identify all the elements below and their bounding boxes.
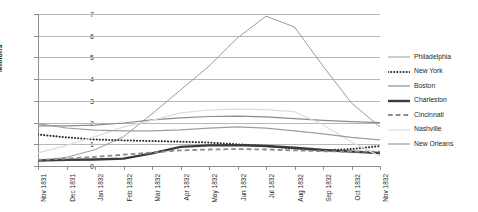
legend-item-new-york[interactable]: New York xyxy=(388,65,476,80)
x-tick-mark xyxy=(238,166,239,170)
x-tick-mark xyxy=(323,166,324,170)
x-tick-mark xyxy=(209,166,210,170)
x-tick-mark xyxy=(181,166,182,170)
legend-item-cincinnati[interactable]: Cincinnati xyxy=(388,108,476,123)
series-lines xyxy=(38,14,380,166)
series-line-new-york xyxy=(38,135,380,151)
x-tick-label: Sep 1832 xyxy=(326,174,333,202)
legend-label: Philadelphia xyxy=(414,54,451,61)
x-tick-label: Nov 1832 xyxy=(383,174,390,202)
x-tick-label: Apr 1832 xyxy=(184,174,191,200)
legend-label: Cincinnati xyxy=(414,112,444,119)
series-line-boston xyxy=(38,116,380,126)
x-tick-mark xyxy=(352,166,353,170)
x-tick-label: Jan 1832 xyxy=(98,174,105,201)
legend-swatch-icon xyxy=(388,68,410,76)
x-tick-label: Jun 1832 xyxy=(241,174,248,201)
legend-item-philadelphia[interactable]: Philadelphia xyxy=(388,50,476,65)
x-tick-mark xyxy=(152,166,153,170)
legend-swatch-icon xyxy=(388,126,410,134)
legend-item-charleston[interactable]: Charleston xyxy=(388,94,476,109)
y-axis-title: Millions xyxy=(0,44,3,72)
x-tick-mark xyxy=(95,166,96,170)
x-tick-label: May 1832 xyxy=(212,174,219,203)
legend-label: New Orleans xyxy=(414,141,453,148)
chart-container: Millions 01234567 Nov 1831Dec 1831Jan 18… xyxy=(0,0,478,212)
legend-label: Nashville xyxy=(414,126,442,133)
series-line-charleston xyxy=(38,145,380,160)
x-tick-mark xyxy=(295,166,296,170)
legend-swatch-icon xyxy=(388,97,410,105)
x-tick-label: Nov 1831 xyxy=(41,174,48,202)
x-axis-line xyxy=(38,166,380,167)
legend-swatch-icon xyxy=(388,82,410,90)
legend-item-nashville[interactable]: Nashville xyxy=(388,123,476,138)
legend-swatch-icon xyxy=(388,111,410,119)
x-tick-mark xyxy=(266,166,267,170)
plot-area xyxy=(38,14,380,166)
legend-label: Boston xyxy=(414,83,435,90)
x-tick-mark xyxy=(38,166,39,170)
chart-legend: PhiladelphiaNew YorkBostonCharlestonCinc… xyxy=(388,50,476,152)
legend-item-boston[interactable]: Boston xyxy=(388,79,476,94)
x-tick-mark xyxy=(380,166,381,170)
x-tick-label: Jul 1832 xyxy=(269,174,276,199)
x-tick-label: Feb 1832 xyxy=(127,174,134,201)
legend-swatch-icon xyxy=(388,140,410,148)
series-line-new-orleans xyxy=(38,124,380,140)
x-tick-mark xyxy=(67,166,68,170)
x-tick-mark xyxy=(124,166,125,170)
x-tick-label: Mar 1832 xyxy=(155,174,162,201)
x-tick-label: Oct 1832 xyxy=(355,174,362,200)
legend-label: Charleston xyxy=(414,97,447,104)
legend-swatch-icon xyxy=(388,53,410,61)
legend-label: New York xyxy=(414,68,443,75)
legend-item-new-orleans[interactable]: New Orleans xyxy=(388,137,476,152)
x-tick-label: Dec 1831 xyxy=(70,174,77,202)
x-tick-label: Aug 1832 xyxy=(298,174,305,202)
